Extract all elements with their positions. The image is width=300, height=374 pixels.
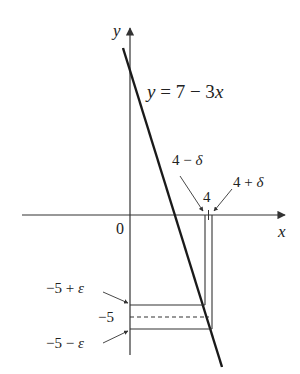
upper-epsilon-pointer [103,292,128,303]
y-center-label: −5 [98,309,114,325]
y-upper-label: −5 + ε [46,280,84,296]
x-left-label: 4 − δ [172,152,203,168]
function-label: y = 7 − 3x [145,81,224,102]
right-delta-pointer [214,189,232,211]
left-delta-pointer [180,176,203,211]
x-axis-label: x [277,222,286,241]
y-axis-label: y [111,21,121,40]
x-right-label: 4 + δ [233,174,264,190]
y-lower-label: −5 − ε [46,335,84,351]
lower-epsilon-pointer [103,331,128,343]
diagram-canvas: y x 0 y = 7 − 3x 4 4 − δ 4 + δ −5 + ε −5… [0,0,300,374]
x-center-label: 4 [203,189,211,205]
origin-label: 0 [116,220,124,237]
